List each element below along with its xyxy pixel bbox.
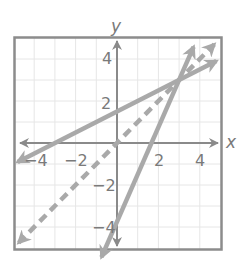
coordinate-plane: y x −4 −2 2 4 4 2 −2 −4 — [0, 0, 248, 261]
x-tick-label: 4 — [195, 151, 205, 170]
x-tick-label: −2 — [64, 151, 88, 170]
y-tick-label: −4 — [92, 218, 116, 237]
y-tick-label: −2 — [92, 176, 116, 195]
y-tick-label: 2 — [101, 94, 111, 113]
y-tick-label: 4 — [102, 49, 112, 68]
y-axis-label: y — [110, 16, 122, 36]
x-axis-label: x — [225, 132, 237, 152]
x-tick-label: −4 — [24, 151, 48, 170]
x-tick-label: 2 — [154, 151, 164, 170]
